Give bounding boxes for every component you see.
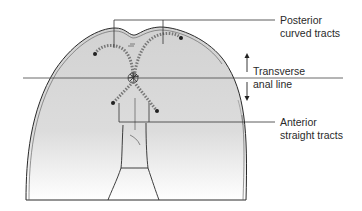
label-transverse: Transverse anal line [253, 65, 305, 91]
buttocks-outline [26, 27, 247, 200]
label-anterior: Anterior straight tracts [280, 116, 343, 142]
label-posterior: Posterior curved tracts [280, 14, 340, 40]
diagram: Posterior curved tracts Transverse anal … [0, 0, 362, 211]
